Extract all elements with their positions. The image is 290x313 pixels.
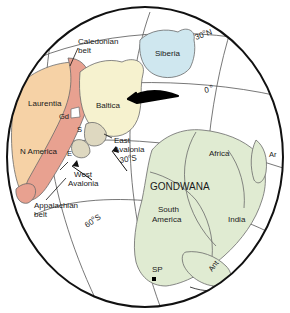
label-india: India bbox=[228, 215, 246, 224]
label-south-america-line2: America bbox=[152, 215, 182, 224]
globe-diagram: Caledonian belt Laurentia N America Gd S… bbox=[0, 0, 290, 313]
label-africa: Africa bbox=[209, 149, 230, 158]
paleogeographic-map: Caledonian belt Laurentia N America Gd S… bbox=[0, 0, 290, 313]
label-east-avalonia-line1: East bbox=[114, 136, 131, 145]
label-appalachian-belt-line2: belt bbox=[34, 210, 48, 219]
label-south-america-line1: South bbox=[158, 205, 179, 214]
label-south-pole: SP bbox=[152, 265, 163, 274]
label-n-america: N America bbox=[20, 147, 57, 156]
label-caledonian-belt-line2: belt bbox=[78, 46, 92, 55]
label-greenland-abbr: Gd bbox=[59, 112, 69, 121]
label-west-avalonia-line2: Avalonia bbox=[68, 179, 99, 188]
label-laurentia: Laurentia bbox=[28, 99, 62, 108]
label-arabia: Ar bbox=[269, 150, 277, 159]
label-baltica: Baltica bbox=[96, 101, 121, 110]
south-pole-marker bbox=[152, 277, 156, 281]
label-caledonian-belt-line1: Caledonian bbox=[78, 37, 118, 46]
label-siberia: Siberia bbox=[155, 49, 180, 58]
antarctica-arrowhead bbox=[218, 285, 226, 291]
label-gondwana: GONDWANA bbox=[150, 181, 210, 192]
label-appalachian-belt-line1: Appalachian bbox=[34, 201, 78, 210]
label-england-abbr: E bbox=[67, 149, 72, 158]
label-west-avalonia-line1: West bbox=[74, 170, 93, 179]
label-scotland-abbr: S bbox=[77, 125, 82, 134]
greenland-notch bbox=[71, 107, 80, 118]
